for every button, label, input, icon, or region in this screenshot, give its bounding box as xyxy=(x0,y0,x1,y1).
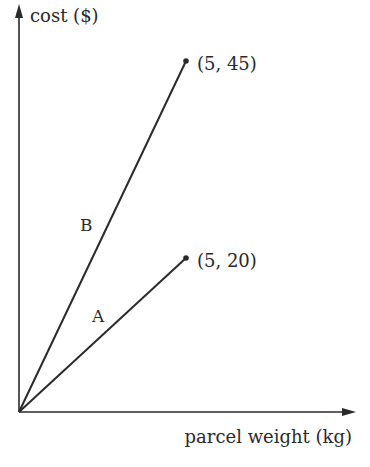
line-b-label: B xyxy=(80,215,93,235)
x-axis-label: parcel weight (kg) xyxy=(185,426,352,447)
y-axis xyxy=(15,4,23,412)
point-b xyxy=(183,58,189,64)
x-axis xyxy=(19,408,356,416)
y-axis-arrow-icon xyxy=(15,4,23,18)
cost-vs-weight-chart: cost ($) parcel weight (kg) (5, 45) (5, … xyxy=(0,0,370,467)
x-axis-arrow-icon xyxy=(342,408,356,416)
point-a xyxy=(183,255,189,261)
line-b xyxy=(19,61,186,412)
point-b-label: (5, 45) xyxy=(197,53,257,74)
y-axis-label: cost ($) xyxy=(30,5,99,26)
line-a xyxy=(19,258,186,412)
line-a-label: A xyxy=(91,306,105,326)
point-a-label: (5, 20) xyxy=(197,250,257,271)
